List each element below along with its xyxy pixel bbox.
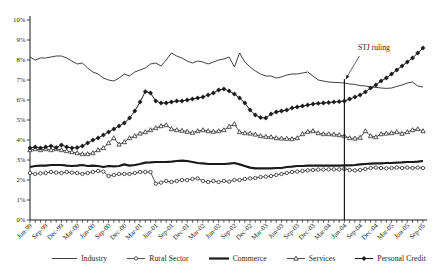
- svg-text:Mar-00: Mar-00: [61, 221, 81, 241]
- svg-text:4%: 4%: [16, 136, 25, 143]
- legend-label-personal-credit: Personal Credit: [377, 254, 426, 263]
- svg-text:9%: 9%: [16, 36, 25, 43]
- svg-text:Jun-01: Jun-01: [141, 222, 159, 240]
- svg-text:7%: 7%: [16, 76, 25, 83]
- svg-text:Sep-05: Sep-05: [408, 221, 427, 240]
- annotation-label: STJ ruling: [358, 43, 390, 52]
- commerce-line-swatch: [208, 254, 230, 263]
- svg-text:6%: 6%: [16, 96, 25, 103]
- legend-label-services: Services: [309, 254, 336, 263]
- industry-line-swatch: [51, 254, 78, 263]
- legend-label-commerce: Commerce: [233, 254, 267, 263]
- svg-text:Mar-05: Mar-05: [376, 221, 396, 241]
- svg-text:10%: 10%: [13, 16, 26, 23]
- svg-text:1%: 1%: [16, 196, 25, 203]
- svg-text:Mar-01: Mar-01: [124, 222, 143, 241]
- chart-legend: Industry Rural Sector Commerce Services …: [0, 247, 437, 269]
- plot-series: [28, 46, 425, 186]
- svg-text:2%: 2%: [16, 176, 25, 183]
- svg-text:Mar-03: Mar-03: [250, 221, 270, 241]
- chart-canvas: 0%1%2%3%4%5%6%7%8%9%10% Jun-99Sep-99Dec-…: [0, 0, 437, 246]
- legend-item-personal-credit: Personal Credit: [354, 254, 426, 263]
- legend-item-industry: Industry: [51, 254, 107, 263]
- svg-text:5%: 5%: [16, 116, 25, 123]
- svg-text:8%: 8%: [16, 56, 25, 63]
- rural-sector-circle-swatch: [126, 254, 146, 263]
- chart-figure: 0%1%2%3%4%5%6%7%8%9%10% Jun-99Sep-99Dec-…: [0, 0, 437, 274]
- x-axis: Jun-99Sep-99Dec-99Mar-00Jun-00Sep-00Dec-…: [15, 220, 427, 241]
- legend-label-rural-sector: Rural Sector: [149, 254, 188, 263]
- legend-item-commerce: Commerce: [208, 254, 267, 263]
- svg-text:Mar-04: Mar-04: [313, 221, 333, 241]
- svg-text:3%: 3%: [16, 156, 25, 163]
- legend-item-rural-sector: Rural Sector: [126, 254, 188, 263]
- legend-item-services: Services: [286, 254, 336, 263]
- personal-credit-diamond-swatch: [354, 254, 374, 263]
- svg-text:0%: 0%: [16, 216, 25, 223]
- y-axis: 0%1%2%3%4%5%6%7%8%9%10%: [13, 16, 30, 223]
- legend-label-industry: Industry: [81, 254, 107, 263]
- services-triangle-swatch: [286, 254, 306, 263]
- svg-text:Mar-02: Mar-02: [187, 221, 207, 241]
